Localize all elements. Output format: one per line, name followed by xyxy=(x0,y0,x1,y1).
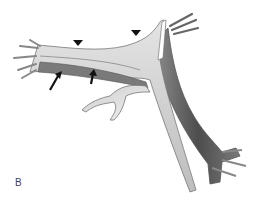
lower-branch xyxy=(82,85,150,120)
arrowhead-icon xyxy=(131,30,141,36)
panel-label: B xyxy=(15,177,22,188)
arrowhead-markers xyxy=(73,30,141,46)
anatomical-illustration: B xyxy=(0,0,259,208)
arrowhead-icon xyxy=(73,40,83,46)
light-duct xyxy=(30,20,196,192)
dark-vessel xyxy=(156,14,246,184)
vessel-diagram xyxy=(0,0,259,208)
arrow-icon xyxy=(50,76,58,90)
